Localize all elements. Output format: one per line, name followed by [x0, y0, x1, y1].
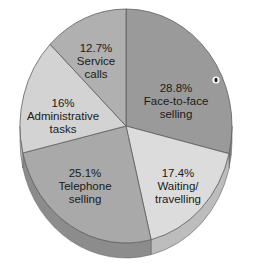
pie-chart: 28.8%Face-to-faceselling17.4%Waiting/tra… [0, 0, 254, 276]
dot-marker-icon [212, 76, 219, 83]
slice-label: 17.4%Waiting/travelling [155, 167, 201, 205]
